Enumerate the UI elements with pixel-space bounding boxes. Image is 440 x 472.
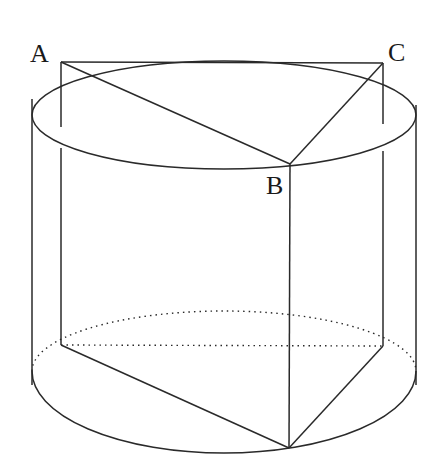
point-label-C: C: [388, 40, 405, 66]
point-label-A: A: [30, 41, 49, 67]
edge-AC: [61, 62, 383, 63]
bottom-base-front-arc: [32, 371, 416, 453]
point-label-B: B: [266, 173, 283, 199]
edge-A1C1-hidden: [61, 345, 383, 346]
edge-B1C1: [289, 346, 383, 448]
bottom-base-back-arc: [32, 311, 416, 371]
edge-BB1: [289, 164, 290, 448]
diagram-canvas: A C B: [0, 0, 440, 472]
edge-AB: [61, 62, 290, 164]
cylinder-prism-figure: [0, 0, 440, 472]
top-base-circle: [32, 61, 416, 169]
edge-BC: [290, 63, 383, 164]
